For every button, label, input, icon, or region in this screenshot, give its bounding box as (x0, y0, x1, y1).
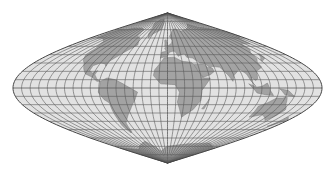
world-map (0, 0, 333, 170)
graticule (13, 13, 322, 163)
